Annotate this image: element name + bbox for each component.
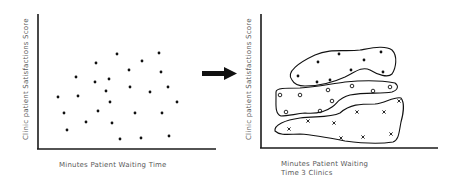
data-point <box>66 129 69 132</box>
clinic-1-point <box>382 71 385 74</box>
right-data-points <box>278 51 400 140</box>
data-point <box>77 95 80 98</box>
clinic-1-point <box>316 81 319 84</box>
clinic-2-point <box>326 88 330 92</box>
clinic-2-point <box>350 84 354 88</box>
data-point <box>75 76 78 79</box>
diagram-canvas: Clinic patient Satisfactions Score Minut… <box>0 0 461 186</box>
cluster-outline-clinic-2 <box>276 81 397 116</box>
data-point <box>149 91 152 94</box>
data-point <box>158 52 161 55</box>
clinic-2-point <box>330 99 334 103</box>
clinic-1-point <box>380 51 383 54</box>
clinic-3-point <box>382 110 385 113</box>
clinic-1-point <box>338 53 341 56</box>
clinic-3-point <box>397 99 400 102</box>
clinic-3-point <box>361 135 364 138</box>
clinic-2-point <box>298 93 302 97</box>
clinic-2-point <box>371 89 375 93</box>
clinic-2-point <box>388 85 392 89</box>
right-clustered-plot: Clinic patient Satisfactions Score Minut… <box>245 14 438 177</box>
data-point <box>63 112 66 115</box>
cluster-outline-clinic-3 <box>275 98 403 143</box>
clinic-3-point <box>339 136 342 139</box>
clinic-3-point <box>355 110 358 113</box>
clinic-1-point <box>329 79 332 82</box>
data-point <box>167 86 170 89</box>
data-point <box>129 86 132 89</box>
clinic-1-point <box>350 69 353 72</box>
data-point <box>141 60 144 63</box>
clinic-3-point <box>306 119 309 122</box>
clinic-1-point <box>317 61 320 64</box>
data-point <box>128 69 131 72</box>
data-point <box>109 101 112 104</box>
data-point <box>105 90 108 93</box>
data-point <box>85 121 88 124</box>
clinic-3-point <box>332 121 335 124</box>
clinic-2-point <box>284 110 288 114</box>
data-point <box>111 122 114 125</box>
data-point <box>57 96 60 99</box>
data-point <box>140 137 143 140</box>
transform-arrow-icon <box>202 67 237 80</box>
cluster-outline-clinic-1 <box>290 47 396 86</box>
left-scatter-plot: Clinic patient Satisfactions Score Minut… <box>22 14 216 169</box>
data-point <box>168 135 171 138</box>
left-x-axis-label: Minutes Patient Waiting Time <box>59 161 167 169</box>
clinic-1-point <box>363 59 366 62</box>
data-point <box>116 53 119 56</box>
data-point <box>108 78 111 81</box>
data-point <box>95 62 98 65</box>
right-y-axis-label: Clinic patient Satisfactions Score <box>245 18 253 140</box>
left-data-points <box>57 52 179 141</box>
right-x-axis-label-line2: Time 3 Clinics <box>280 169 333 177</box>
data-point <box>161 112 164 115</box>
data-point <box>94 81 97 84</box>
clinic-2-point <box>278 93 282 97</box>
data-point <box>134 112 137 115</box>
left-y-axis-label: Clinic patient Satisfactions Score <box>22 18 30 140</box>
clinic-3-point <box>389 132 392 135</box>
data-point <box>97 110 100 113</box>
data-point <box>160 71 163 74</box>
data-point <box>176 101 179 104</box>
clinic-1-point <box>297 75 300 78</box>
right-x-axis-label-line1: Minutes Patient Waiting <box>281 160 368 168</box>
clinic-3-point <box>287 127 290 130</box>
data-point <box>119 138 122 141</box>
